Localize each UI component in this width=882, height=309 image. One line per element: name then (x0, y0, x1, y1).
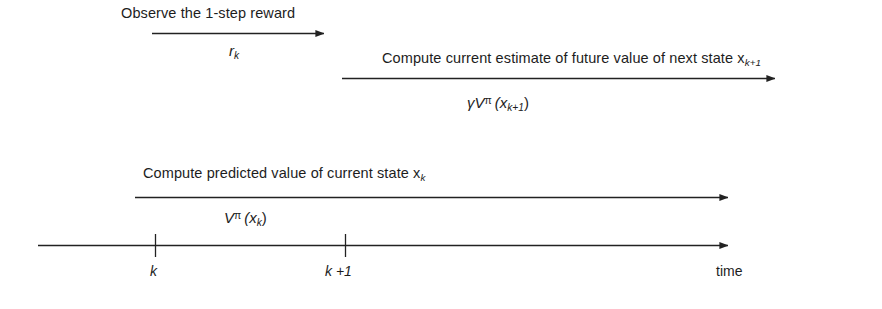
future-value-symbol: γVπ(xk+1) (467, 95, 529, 113)
future-value-symbol-sup: π (485, 94, 492, 106)
diagram-lines (0, 0, 882, 309)
reward-caption: Observe the 1-step reward (121, 6, 295, 21)
future-value-symbol-main: V (475, 94, 485, 111)
time-axis-tick-label-k-plus-1: k +1 (325, 264, 352, 278)
predicted-value-caption: Compute predicted value of current state… (143, 166, 425, 183)
reward-symbol: rk (229, 43, 239, 61)
predicted-value-arg-close: ) (262, 209, 267, 226)
figure-canvas: Observe the 1-step reward rk Compute cur… (0, 0, 882, 309)
future-value-arg-open: (x (492, 94, 508, 111)
future-value-caption-sub: k+1 (745, 57, 761, 68)
predicted-value-caption-sub: k (420, 172, 425, 183)
predicted-value-symbol: Vπ(xk) (224, 210, 267, 228)
future-value-arg-sub: k+1 (507, 102, 524, 113)
predicted-value-caption-text: Compute predicted value of current state… (143, 165, 420, 181)
reward-symbol-sub: k (234, 50, 239, 61)
future-value-caption-text: Compute current estimate of future value… (382, 50, 745, 66)
predicted-value-symbol-main: V (224, 209, 234, 226)
future-value-caption: Compute current estimate of future value… (382, 51, 761, 68)
time-axis-tick-label-k: k (150, 264, 157, 278)
predicted-value-arg-open: (x (241, 209, 257, 226)
time-axis-label: time (716, 264, 742, 278)
future-value-arg-close: ) (524, 94, 529, 111)
gamma-symbol: γ (467, 94, 475, 111)
